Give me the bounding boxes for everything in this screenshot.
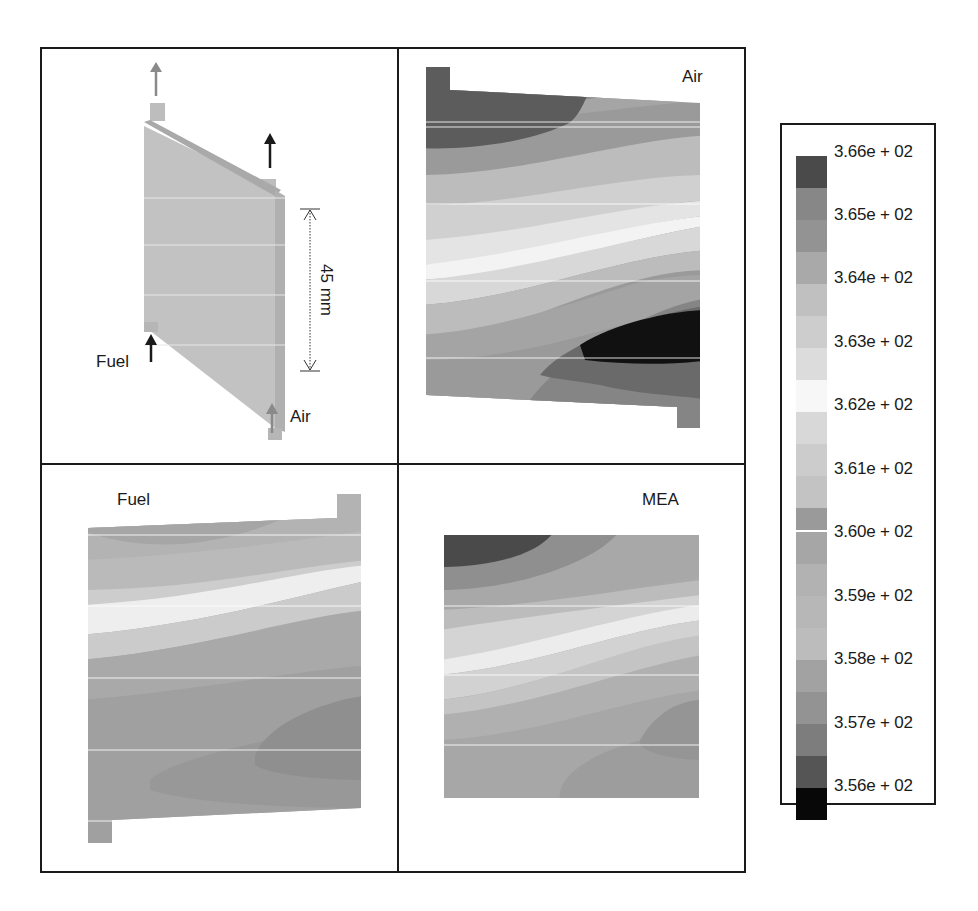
colorbar-band [796,628,827,660]
colorbar-tick-label: 3.59e + 02 [834,586,913,606]
colorbar-tick-label: 3.57e + 02 [834,713,913,733]
colorbar-band [796,284,827,316]
colorbar-band [796,220,827,252]
mea-panel-title: MEA [642,490,679,510]
air-outlet-arrow-icon [264,133,276,168]
colorbar-tick-label: 3.64e + 02 [834,268,913,288]
colorbar-band [796,444,827,476]
colorbar-band [796,660,827,692]
colorbar-band [796,564,827,596]
fuel-outlet-arrow-icon [150,62,162,96]
colorbar-tick-label: 3.63e + 02 [834,332,913,352]
fuel-panel-title: Fuel [117,490,150,510]
colorbar-tick-label: 3.62e + 02 [834,395,913,415]
colorbar-band [796,756,827,788]
mea-contour-panel: MEA [398,464,744,871]
colorbar-band [796,252,827,284]
colorbar-band [796,596,827,628]
air-contour-plot [398,49,744,461]
geometry-panel: Fuel Air 45 mm [42,49,396,461]
air-panel-title: Air [682,67,703,87]
colorbar-tick-label: 3.61e + 02 [834,459,913,479]
colorbar-band [796,724,827,756]
colorbar-tick-label: 3.66e + 02 [834,142,913,162]
fuel-inlet-label: Fuel [96,352,129,372]
colorbar-band [796,412,827,444]
colorbar-tick-label: 3.65e + 02 [834,205,913,225]
colorbar-band [796,476,827,508]
colorbar-legend: 3.66e + 02 3.65e + 02 3.64e + 02 3.63e +… [780,123,936,805]
colorbar-tick-label: 3.56e + 02 [834,776,913,796]
colorbar-band [796,532,827,564]
colorbar-tick-label: 3.58e + 02 [834,649,913,669]
fuel-inlet-arrow-icon [145,334,157,362]
air-contour-panel: Air [398,49,744,461]
colorbar [796,156,827,820]
colorbar-band [796,788,827,820]
colorbar-band [796,348,827,380]
cell-geometry-diagram [42,49,396,461]
fuel-contour-plot [42,464,396,871]
fuel-contour-panel: Fuel [42,464,396,871]
colorbar-band [796,188,827,220]
colorbar-band [796,380,827,412]
colorbar-band [796,692,827,724]
colorbar-band [796,316,827,348]
air-inlet-label: Air [290,407,311,427]
colorbar-tick-label: 3.60e + 02 [834,522,913,542]
dimension-label: 45 mm [316,264,336,316]
colorbar-band [796,156,827,188]
mea-contour-plot [398,464,744,871]
colorbar-band [796,508,827,532]
